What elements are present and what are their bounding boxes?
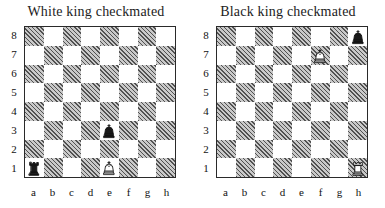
board-panel-right: Black king checkmated 87654321 abcdefgh	[192, 0, 384, 208]
rank-labels-right: 87654321	[198, 26, 214, 178]
board-square-b5	[44, 83, 63, 102]
board-square-g2	[138, 140, 157, 159]
board-square-c6	[255, 65, 274, 84]
board-square-c3	[255, 121, 274, 140]
board-square-e2	[292, 140, 311, 159]
board-square-f7	[311, 46, 330, 65]
board-square-c1	[63, 158, 82, 177]
board-square-h6	[348, 65, 367, 84]
square-grid-left	[25, 27, 175, 177]
board-square-f4	[311, 102, 330, 121]
board-square-e6	[100, 65, 119, 84]
board-square-h5	[156, 83, 175, 102]
rank-label: 3	[198, 121, 214, 140]
square-grid-right	[217, 27, 367, 177]
file-label: a	[216, 183, 235, 201]
board-square-g7	[330, 46, 349, 65]
board-square-b8	[236, 27, 255, 46]
piece-white-rook-icon	[349, 160, 366, 177]
board-square-g1	[330, 158, 349, 177]
board-square-d1	[81, 158, 100, 177]
board-square-a6	[217, 65, 236, 84]
file-label: h	[157, 183, 176, 201]
board-square-b2	[44, 140, 63, 159]
board-square-b8	[44, 27, 63, 46]
board-square-h7	[156, 46, 175, 65]
rank-label: 5	[6, 83, 22, 102]
board-square-f4	[119, 102, 138, 121]
board-square-e4	[100, 102, 119, 121]
board-square-b7	[44, 46, 63, 65]
board-title-right: Black king checkmated	[220, 2, 356, 22]
board-square-b1	[236, 158, 255, 177]
board-square-d1	[273, 158, 292, 177]
board-square-b6	[44, 65, 63, 84]
board-square-g2	[330, 140, 349, 159]
rank-label: 2	[198, 140, 214, 159]
board-square-h1	[156, 158, 175, 177]
board-square-d6	[273, 65, 292, 84]
file-label: h	[349, 183, 368, 201]
board-square-d5	[273, 83, 292, 102]
board-square-e8	[100, 27, 119, 46]
file-label: e	[292, 183, 311, 201]
board-square-f5	[311, 83, 330, 102]
board-square-a4	[25, 102, 44, 121]
board-square-b4	[44, 102, 63, 121]
board-square-a3	[25, 121, 44, 140]
file-label: f	[119, 183, 138, 201]
board-square-g5	[330, 83, 349, 102]
board-square-f5	[119, 83, 138, 102]
rank-label: 1	[6, 159, 22, 178]
board-square-d7	[273, 46, 292, 65]
rank-label: 4	[6, 102, 22, 121]
board-area-right: 87654321 abcdefgh	[198, 23, 378, 203]
board-square-g3	[138, 121, 157, 140]
board-square-a5	[25, 83, 44, 102]
board-square-f8	[119, 27, 138, 46]
piece-white-king-icon	[101, 160, 118, 177]
piece-black-king-icon	[101, 122, 118, 139]
file-labels-left: abcdefgh	[24, 183, 176, 201]
board-square-g4	[330, 102, 349, 121]
board-square-f3	[119, 121, 138, 140]
rank-label: 5	[198, 83, 214, 102]
file-label: f	[311, 183, 330, 201]
board-panel-left: White king checkmated 87654321 abcdefgh	[0, 0, 192, 208]
board-square-d5	[81, 83, 100, 102]
board-square-h6	[156, 65, 175, 84]
file-label: d	[273, 183, 292, 201]
piece-black-king-icon	[349, 28, 366, 45]
board-square-c7	[63, 46, 82, 65]
board-square-h3	[348, 121, 367, 140]
board-square-g6	[138, 65, 157, 84]
board-square-e6	[292, 65, 311, 84]
board-square-d7	[81, 46, 100, 65]
rank-label: 6	[6, 64, 22, 83]
board-square-h8	[156, 27, 175, 46]
board-square-d4	[273, 102, 292, 121]
board-square-e5	[292, 83, 311, 102]
rank-label: 8	[198, 26, 214, 45]
chessboard-left	[24, 26, 176, 178]
board-square-b5	[236, 83, 255, 102]
board-square-e1	[100, 158, 119, 177]
board-square-e7	[292, 46, 311, 65]
board-square-e2	[100, 140, 119, 159]
board-square-e1	[292, 158, 311, 177]
board-square-h2	[156, 140, 175, 159]
file-label: c	[254, 183, 273, 201]
board-square-a5	[217, 83, 236, 102]
board-square-f2	[119, 140, 138, 159]
board-square-b7	[236, 46, 255, 65]
board-square-c5	[255, 83, 274, 102]
board-square-a7	[217, 46, 236, 65]
board-square-b4	[236, 102, 255, 121]
board-wrap-left	[24, 26, 176, 178]
board-square-b2	[236, 140, 255, 159]
file-labels-right: abcdefgh	[216, 183, 368, 201]
board-square-d3	[81, 121, 100, 140]
board-square-g3	[330, 121, 349, 140]
rank-label: 8	[6, 26, 22, 45]
board-square-f1	[311, 158, 330, 177]
